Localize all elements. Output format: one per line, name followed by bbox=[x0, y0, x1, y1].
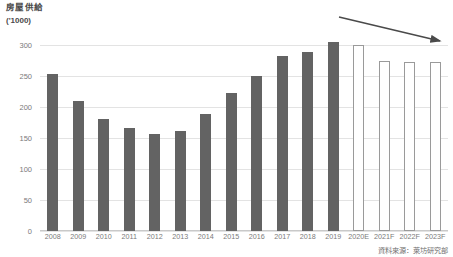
bar-2012[interactable] bbox=[149, 45, 160, 231]
bar-2020E[interactable] bbox=[353, 45, 364, 231]
bar-rect bbox=[404, 62, 415, 231]
x-tick-label-2020E: 2020E bbox=[348, 232, 369, 241]
bar-2022F[interactable] bbox=[404, 45, 415, 231]
bar-2013[interactable] bbox=[175, 45, 186, 231]
page-title: 房屋供給 bbox=[6, 3, 43, 13]
bar-rect bbox=[251, 76, 262, 231]
bar-rect bbox=[328, 42, 339, 231]
y-tick-label: 300 bbox=[19, 41, 32, 50]
bar-rect bbox=[353, 45, 364, 231]
x-tick-label-2014: 2014 bbox=[198, 232, 214, 241]
bar-rect bbox=[175, 131, 186, 231]
bar-2021F[interactable] bbox=[379, 45, 390, 231]
x-tick-label-2016: 2016 bbox=[249, 232, 265, 241]
bar-rect bbox=[124, 128, 135, 231]
y-tick-label: 150 bbox=[19, 134, 32, 143]
x-tick-label-2010: 2010 bbox=[96, 232, 112, 241]
bar-2018[interactable] bbox=[302, 45, 313, 231]
bar-2017[interactable] bbox=[277, 45, 288, 231]
x-tick-label-2021F: 2021F bbox=[374, 232, 394, 241]
y-tick-label: 0 bbox=[28, 227, 32, 236]
bar-2019[interactable] bbox=[328, 45, 339, 231]
bar-rect bbox=[277, 56, 288, 231]
bar-rect bbox=[73, 101, 84, 231]
x-tick-label-2009: 2009 bbox=[70, 232, 86, 241]
plot-area bbox=[40, 45, 448, 231]
x-tick-label-2013: 2013 bbox=[172, 232, 188, 241]
y-tick-label: 250 bbox=[19, 72, 32, 81]
y-axis-unit-label: ('1000) bbox=[6, 16, 43, 25]
chart-title-block: 房屋供給 ('1000) bbox=[6, 3, 43, 25]
bar-rect bbox=[47, 74, 58, 231]
x-tick-label-2018: 2018 bbox=[300, 232, 316, 241]
bar-rect bbox=[302, 52, 313, 231]
x-tick-label-2019: 2019 bbox=[325, 232, 341, 241]
bar-2010[interactable] bbox=[98, 45, 109, 231]
downward-trend-arrow bbox=[330, 8, 450, 50]
bar-rect bbox=[379, 61, 390, 232]
x-tick-label-2008: 2008 bbox=[45, 232, 61, 241]
bar-rect bbox=[200, 114, 211, 231]
y-axis: 300250200150100500 bbox=[0, 45, 36, 231]
x-tick-label-2011: 2011 bbox=[122, 232, 137, 241]
bar-2009[interactable] bbox=[73, 45, 84, 231]
x-tick-label-2022F: 2022F bbox=[400, 232, 420, 241]
bar-rect bbox=[98, 119, 109, 231]
y-tick-label: 200 bbox=[19, 103, 32, 112]
x-tick-label-2015: 2015 bbox=[223, 232, 239, 241]
bar-2014[interactable] bbox=[200, 45, 211, 231]
x-tick-label-2012: 2012 bbox=[147, 232, 163, 241]
bar-rect bbox=[430, 62, 441, 231]
source-note: 資料來源：萊坊研究部 bbox=[378, 245, 448, 255]
bar-2015[interactable] bbox=[226, 45, 237, 231]
y-tick-label: 100 bbox=[19, 165, 32, 174]
bar-2011[interactable] bbox=[124, 45, 135, 231]
x-axis: 2008200920102011201220132014201520162017… bbox=[40, 232, 448, 246]
y-tick-label: 50 bbox=[24, 196, 32, 205]
bar-2016[interactable] bbox=[251, 45, 262, 231]
bar-rect bbox=[226, 93, 237, 231]
x-tick-label-2023F: 2023F bbox=[425, 232, 445, 241]
bar-2008[interactable] bbox=[47, 45, 58, 231]
bar-rect bbox=[149, 134, 160, 231]
bar-2023F[interactable] bbox=[430, 45, 441, 231]
x-tick-label-2017: 2017 bbox=[274, 232, 290, 241]
